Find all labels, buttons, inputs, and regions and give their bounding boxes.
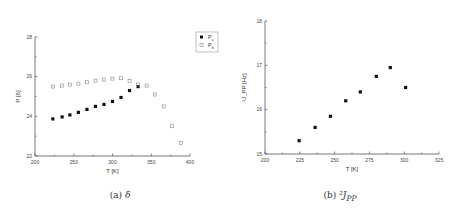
caption-b-prefix: (b): [324, 190, 337, 200]
chart-panel-b: 20022525027530032515161718T [K]²J_PP [Hz…: [230, 0, 459, 218]
data-point-filled: [404, 86, 407, 89]
x-tick-label: 325: [435, 157, 444, 163]
x-tick-label: 300: [400, 157, 409, 163]
data-point-open: [51, 85, 54, 88]
x-tick-label: 200: [261, 157, 270, 163]
y-tick-label: 28: [26, 34, 32, 40]
data-point-open: [120, 77, 123, 80]
data-point-filled: [51, 117, 54, 120]
data-point-filled: [344, 99, 347, 102]
x-tick-label: 300: [108, 159, 117, 165]
data-point-filled: [329, 115, 332, 118]
x-tick-label: 250: [70, 159, 79, 165]
data-point-filled: [375, 75, 378, 78]
data-point-filled: [94, 105, 97, 108]
chart-panel-a: 20025030035040022242628T [K]P [δ]PaPb (a…: [0, 0, 229, 218]
data-point-open: [162, 105, 165, 108]
data-point-open: [94, 79, 97, 82]
y-tick-label: 16: [256, 106, 262, 112]
x-tick-label: 200: [31, 159, 40, 165]
data-point-filled: [128, 89, 131, 92]
data-point-open: [68, 83, 71, 86]
data-point-filled: [314, 126, 317, 129]
data-point-open: [154, 93, 157, 96]
data-point-filled: [68, 113, 71, 116]
legend-label-sub: a: [212, 38, 214, 42]
data-point-open: [61, 84, 64, 87]
x-tick-label: 350: [147, 159, 156, 165]
x-tick-label: 225: [296, 157, 305, 163]
legend-marker-filled: [200, 36, 203, 39]
data-point-open: [102, 78, 105, 81]
caption-b: (b) ²JPP: [230, 190, 450, 203]
data-point-filled: [359, 90, 362, 93]
y-tick-label: 18: [256, 18, 262, 24]
data-point-filled: [111, 100, 114, 103]
x-tick-label: 400: [186, 159, 195, 165]
y-tick-label: 22: [26, 153, 32, 159]
legend-box: [196, 32, 218, 52]
data-point-filled: [136, 85, 139, 88]
y-axis-label: P [δ]: [15, 90, 21, 103]
data-point-open: [145, 84, 148, 87]
y-axis-label: ²J_PP [Hz]: [241, 73, 247, 102]
data-point-open: [77, 82, 80, 85]
y-tick-label: 26: [26, 73, 32, 79]
legend: PaPb: [196, 32, 218, 52]
scatter-plot-delta: 20025030035040022242628T [K]P [δ]PaPb: [0, 0, 229, 190]
scatter-plot-jpp: 20022525027530032515161718T [K]²J_PP [Hz…: [230, 0, 459, 190]
y-tick-label: 17: [256, 62, 262, 68]
caption-b-sub: PP: [346, 194, 356, 203]
data-point-open: [111, 77, 114, 80]
x-tick-label: 275: [365, 157, 374, 163]
data-point-filled: [389, 66, 392, 69]
data-point-filled: [61, 115, 64, 118]
data-point-open: [179, 142, 182, 145]
y-tick-label: 24: [26, 113, 32, 119]
y-tick-label: 15: [256, 151, 262, 157]
data-point-open: [171, 125, 174, 128]
legend-label-sub: b: [212, 46, 214, 50]
x-axis-label: T [K]: [346, 166, 359, 172]
data-point-open: [85, 81, 88, 84]
data-point-filled: [77, 111, 80, 114]
data-point-filled: [298, 139, 301, 142]
data-point-open: [128, 80, 131, 83]
caption-a-symbol: δ: [125, 190, 130, 200]
caption-a: (a) δ: [0, 190, 240, 200]
x-tick-label: 250: [330, 157, 339, 163]
data-point-filled: [85, 108, 88, 111]
data-point-filled: [119, 96, 122, 99]
x-axis-label: T [K]: [106, 168, 119, 174]
data-point-filled: [102, 103, 105, 106]
caption-a-prefix: (a): [110, 190, 122, 200]
